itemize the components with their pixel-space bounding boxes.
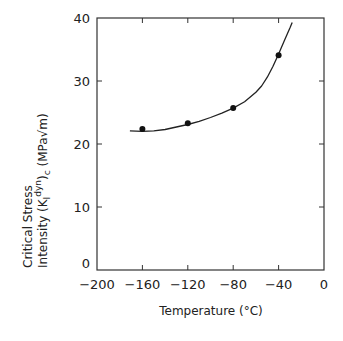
y-tick-label: 0 (82, 256, 90, 271)
x-tick-label: −200 (79, 277, 115, 292)
y-title-intensity: Intensity (K (36, 198, 50, 268)
x-tick-label: −160 (125, 277, 161, 292)
y-title-superscript-dyn: dyn (33, 180, 43, 197)
y-tick-label: 20 (73, 137, 90, 152)
data-series (130, 22, 292, 131)
y-tick-label: 10 (73, 200, 90, 215)
y-title-subscript-i: I (42, 197, 52, 200)
plot-border (97, 18, 324, 270)
x-tick-label: −40 (265, 277, 292, 292)
x-axis-title: Temperature (°C) (158, 304, 263, 318)
y-axis-title-line1: Critical Stress (21, 185, 35, 268)
y-tick-label: 30 (73, 74, 90, 89)
data-point (276, 52, 282, 58)
data-point (185, 120, 191, 126)
plot-frame (97, 18, 324, 270)
y-axis-ticks: 010203040 (73, 11, 324, 271)
y-axis-title: Critical Stress Intensity (KIdyn)c (MPa√… (21, 113, 52, 268)
y-tick-label: 40 (73, 11, 90, 26)
x-tick-label: 0 (320, 277, 328, 292)
x-tick-label: −80 (219, 277, 246, 292)
y-title-critical: Critical Stress (21, 185, 35, 268)
fit-curve (130, 22, 292, 131)
data-point (139, 126, 145, 132)
y-axis-title-line2: Intensity (KIdyn)c (MPa√m) (33, 113, 52, 268)
y-title-units: (MPa√m) (36, 113, 50, 170)
x-axis-ticks: −200−160−120−80−400 (79, 18, 328, 292)
chart: −200−160−120−80−400 010203040 Temperatur… (0, 0, 343, 341)
data-point (230, 105, 236, 111)
x-tick-label: −120 (170, 277, 206, 292)
